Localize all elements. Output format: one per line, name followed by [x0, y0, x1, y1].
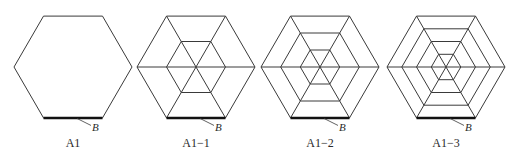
panel-caption: A1−1 — [182, 136, 209, 150]
edge-b-label: B — [339, 121, 346, 133]
panel-a1-2: BA1−2 — [261, 16, 379, 150]
panel-a1-1: BA1−1 — [137, 16, 255, 150]
figure-canvas: BA1BA1−1BA1−2BA1−3 — [0, 0, 518, 161]
hexagon-subdivision-figure: BA1BA1−1BA1−2BA1−3 — [0, 0, 518, 161]
panel-caption: A1−3 — [432, 136, 459, 150]
edge-b-label: B — [215, 121, 222, 133]
edge-b-leader — [77, 118, 91, 125]
edge-b-label: B — [465, 121, 472, 133]
panel-a1-3: BA1−3 — [387, 16, 505, 150]
outer-hexagon — [14, 16, 132, 118]
edge-b-label: B — [92, 121, 99, 133]
panel-caption: A1−2 — [306, 136, 333, 150]
edge-b-leader — [324, 118, 338, 125]
edge-b-leader — [450, 118, 464, 125]
panel-a1: BA1 — [14, 16, 132, 150]
edge-b-leader — [200, 118, 214, 125]
panel-caption: A1 — [66, 136, 81, 150]
